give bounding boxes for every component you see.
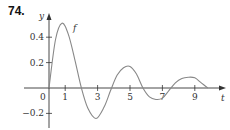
y-ticks: 0.40.2−0.2 [22, 32, 52, 118]
y-tick-label: −0.2 [22, 108, 44, 118]
x-tick-label: 5 [127, 92, 133, 102]
y-axis-label: y [38, 11, 45, 21]
y-tick-label: 0.2 [30, 58, 44, 68]
x-tick-label: 3 [95, 92, 101, 102]
x-axis-label: t [221, 93, 225, 103]
origin-label: 0 [40, 92, 46, 102]
x-tick-label: 9 [192, 92, 198, 102]
curve-f [49, 23, 208, 118]
chart: 0.40.2−0.2 13579 y t 0 f [0, 0, 230, 130]
curve-label: f [72, 23, 78, 33]
y-tick-label: 0.4 [30, 32, 45, 42]
x-tick-label: 7 [160, 92, 166, 102]
x-tick-label: 1 [62, 92, 68, 102]
y-axis-arrow-icon [47, 13, 52, 20]
x-axis-arrow-icon [219, 86, 226, 91]
